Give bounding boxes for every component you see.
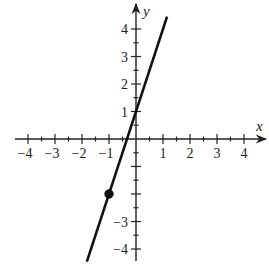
x-axis-label: x <box>255 118 263 134</box>
x-tick-label: −4 <box>18 146 33 161</box>
axes <box>15 4 266 261</box>
y-tick-label: 4 <box>121 22 128 37</box>
x-tick-label: 1 <box>160 146 167 161</box>
y-tick-label: 1 <box>121 105 128 120</box>
data-point <box>105 190 113 198</box>
x-tick-label: −3 <box>45 146 60 161</box>
y-tick-label: −3 <box>113 215 128 230</box>
y-tick-label: 3 <box>121 50 128 65</box>
x-tick-label: −1 <box>99 146 114 161</box>
line-chart: −4−3−2−11234−4−31234 x y <box>0 0 269 270</box>
x-tick-label: 3 <box>214 146 221 161</box>
x-tick-label: −2 <box>72 146 87 161</box>
y-axis-label: y <box>141 3 150 19</box>
y-tick-label: −4 <box>113 242 128 257</box>
x-tick-label: 2 <box>187 146 194 161</box>
data-points <box>105 190 113 198</box>
y-tick-label: 2 <box>121 77 128 92</box>
x-tick-label: 4 <box>241 146 248 161</box>
